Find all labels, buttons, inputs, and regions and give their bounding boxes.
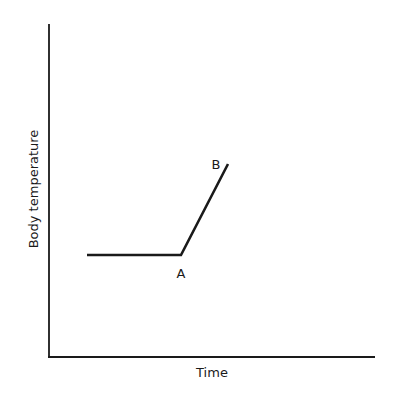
chart: A B Time Body temperature: [0, 0, 394, 395]
x-axis-title: Time: [195, 365, 228, 380]
data-line: [87, 164, 228, 255]
point-b-label: B: [212, 157, 221, 172]
y-axis-title: Body temperature: [26, 130, 41, 249]
point-a-label: A: [177, 266, 186, 281]
